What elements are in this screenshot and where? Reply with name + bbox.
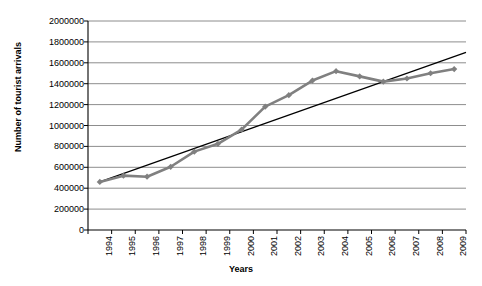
data-point-marker xyxy=(97,179,103,185)
x-tick-label: 1995 xyxy=(127,236,137,256)
data-point-marker xyxy=(404,75,410,81)
data-point-marker xyxy=(427,70,433,76)
trend-line xyxy=(100,52,466,182)
x-tick-label: 1997 xyxy=(175,236,185,256)
x-tick-label: 2000 xyxy=(246,236,256,256)
x-tick-label: 2007 xyxy=(411,236,421,256)
tourist-arrivals-line-chart: Number of tourist arrivals 0200000400000… xyxy=(0,0,482,286)
x-tick-label: 2005 xyxy=(364,236,374,256)
x-tick-label: 1998 xyxy=(198,236,208,256)
x-tick-label: 2001 xyxy=(269,236,279,256)
x-tick-label: 1996 xyxy=(151,236,161,256)
x-tick-label: 1999 xyxy=(222,236,232,256)
x-tick-label: 2003 xyxy=(316,236,326,256)
x-tick-label: 2006 xyxy=(387,236,397,256)
data-point-marker xyxy=(357,73,363,79)
x-tick-label: 2004 xyxy=(340,236,350,256)
x-tick-label: 2002 xyxy=(293,236,303,256)
data-point-marker xyxy=(120,173,126,179)
x-tick-label: 2009 xyxy=(458,236,468,256)
x-tick-label: 2008 xyxy=(435,236,445,256)
x-tick-label: 1994 xyxy=(104,236,114,256)
data-point-marker xyxy=(451,66,457,72)
x-axis-title: Years xyxy=(0,264,482,274)
